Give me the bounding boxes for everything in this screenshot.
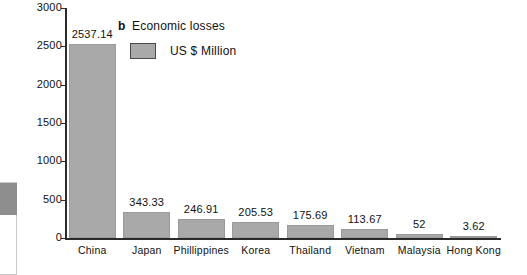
- legend-color-swatch: [130, 43, 156, 59]
- x-axis-line: [65, 238, 501, 240]
- x-axis-category-label: Hong Kong: [424, 245, 524, 256]
- bar-slot: 2537.14: [69, 8, 116, 238]
- y-axis-tick-label: 2500: [6, 40, 62, 51]
- bar-value-label: 52: [413, 219, 426, 230]
- panel-label: b: [118, 19, 132, 33]
- bar: [232, 222, 279, 238]
- bar-slot: 113.67: [341, 8, 388, 238]
- bar: [396, 234, 443, 238]
- bar-value-label: 3.62: [463, 221, 485, 232]
- bar-slot: 52: [396, 8, 443, 238]
- y-axis-tick-label: 0: [6, 232, 62, 243]
- bar: [287, 225, 334, 238]
- bar-slot: 3.62: [450, 8, 497, 238]
- y-axis-tick-label: 2000: [6, 79, 62, 90]
- y-axis-tick-mark: [61, 238, 66, 239]
- plot-area: 300025002000150010005000 2537.14343.3324…: [0, 0, 527, 275]
- bar: [178, 219, 225, 238]
- legend-title-row: b Economic losses: [118, 16, 236, 36]
- bar-value-label: 2537.14: [72, 29, 113, 40]
- y-axis-tick-label: 1500: [6, 117, 62, 128]
- bar: [123, 212, 170, 238]
- bar: [69, 44, 116, 239]
- bar-value-label: 113.67: [348, 214, 382, 225]
- y-axis-tick-label: 3000: [6, 2, 62, 13]
- bar-slot: 175.69: [287, 8, 334, 238]
- bar-value-label: 175.69: [293, 210, 328, 221]
- y-axis-tick-label: 1000: [6, 155, 62, 166]
- legend-unit-label: US $ Million: [170, 44, 236, 58]
- y-axis-tick-label: 500: [6, 194, 62, 205]
- bar-slot: 205.53: [232, 8, 279, 238]
- economic-losses-bar-chart: 300025002000150010005000 2537.14343.3324…: [0, 0, 527, 275]
- chart-legend: b Economic losses US $ Million: [118, 16, 236, 62]
- bar-value-label: 246.91: [184, 204, 219, 215]
- bar: [450, 236, 497, 238]
- bar-value-label: 205.53: [238, 207, 273, 218]
- bar-value-label: 343.33: [129, 197, 164, 208]
- bar: [341, 229, 388, 238]
- chart-title: Economic losses: [132, 19, 225, 33]
- legend-series-row: US $ Million: [118, 40, 236, 62]
